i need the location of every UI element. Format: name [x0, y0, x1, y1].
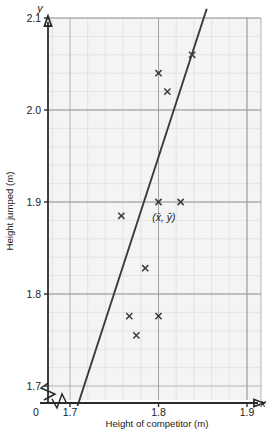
x-axis-tick-label: 1.9	[240, 406, 255, 418]
scatter-chart: 1.71.81.92.02.1 1.71.81.9 0 y x Height o…	[0, 0, 269, 432]
x-axis-tick-label: 1.8	[151, 406, 166, 418]
y-axis-tick-label: 2.0	[26, 104, 41, 116]
y-axis-tick-label: 1.7	[26, 380, 41, 392]
y-axis-tick-label: 1.9	[26, 196, 41, 208]
chart-annotations: (x̄, ȳ)	[152, 211, 175, 223]
x-axis-tick-label: 1.7	[63, 406, 78, 418]
chart-canvas: 1.71.81.92.02.1 1.71.81.9 0 y x Height o…	[0, 0, 269, 432]
y-axis-tick-labels: 1.71.81.92.02.1	[26, 12, 41, 392]
mean-point-label: (x̄, ȳ)	[152, 211, 175, 223]
y-axis-variable-name: y	[36, 2, 44, 14]
x-axis-variable-name: x	[259, 397, 266, 409]
origin-label: 0	[33, 406, 39, 418]
y-axis-tick-label: 1.8	[26, 288, 41, 300]
x-axis-tick-labels: 1.71.81.9	[63, 406, 255, 418]
y-axis-title: Height jumped (m)	[4, 172, 15, 251]
x-axis-title: Height of competitor (m)	[106, 418, 209, 429]
